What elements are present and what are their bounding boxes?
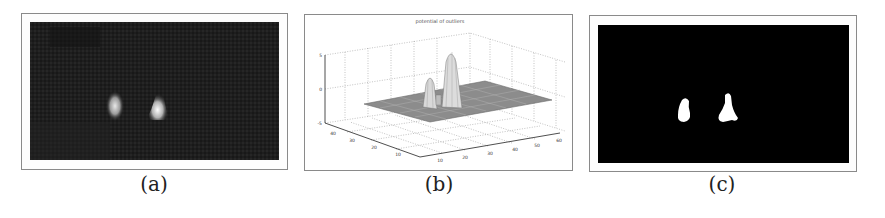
x-tick: 30	[487, 151, 493, 156]
panel-c-mask	[598, 25, 849, 163]
z-tick: 5	[319, 53, 322, 58]
panel-a-image	[30, 22, 279, 160]
y-tick: 20	[371, 145, 377, 150]
panel-c-frame	[589, 15, 857, 172]
panel-a-scene	[30, 22, 279, 160]
caption-b: (b)	[409, 172, 469, 196]
caption-c: (c)	[692, 172, 752, 196]
x-tick: 20	[462, 155, 468, 160]
panel-b-frame: potential of outliers	[304, 14, 573, 171]
y-tick: 40	[330, 131, 336, 136]
y-tick: 10	[395, 152, 401, 157]
mask-blob-left	[678, 98, 690, 122]
panel-c-scene	[598, 25, 849, 163]
x-tick: 10	[437, 158, 443, 163]
plot-title: potential of outliers	[416, 18, 465, 25]
mask-blob-right	[719, 93, 739, 122]
peak-tall	[442, 52, 462, 108]
panel-a-frame	[21, 13, 288, 170]
surface-plot: potential of outliers	[305, 15, 572, 170]
z-tick: -5	[318, 121, 323, 126]
blob-left	[106, 91, 124, 121]
x-tick: 40	[512, 147, 518, 152]
y-tick: 30	[349, 138, 355, 143]
x-tick: 60	[556, 138, 562, 143]
z-tick: 0	[319, 87, 322, 92]
caption-a: (a)	[124, 172, 184, 196]
x-tick: 50	[534, 143, 540, 148]
